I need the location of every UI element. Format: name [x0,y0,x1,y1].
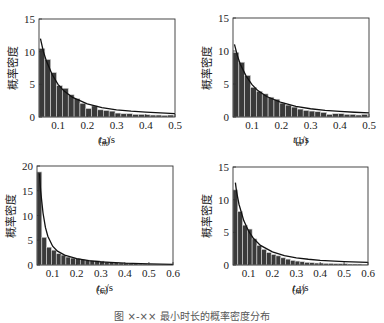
y-tick-label: 0 [28,259,34,271]
y-tick-label: 0 [224,111,230,123]
chart-b-label: (b) [295,134,308,146]
histogram-bar [290,260,295,265]
histogram-bar [251,87,257,117]
chart-c-svg: 051015200.10.20.30.40.50.6tm/s概率密度 [0,150,192,300]
histogram-bar [243,225,248,265]
histogram-bar [291,107,297,117]
x-tick-label: 0.1 [242,267,256,279]
x-tick-label: 0.6 [166,267,180,279]
y-tick-label: 10 [218,45,230,57]
histogram-bar [256,91,262,117]
y-tick-label: 15 [218,161,230,173]
histogram-bar [71,258,76,265]
x-tick-label: 0.3 [289,267,303,279]
histogram-bar [295,261,300,265]
y-tick-label: 10 [22,210,34,222]
y-tick-label: 10 [218,194,230,206]
histogram-bar [57,86,63,117]
histogram-bar [39,48,45,117]
histogram-bar [286,259,291,265]
y-tick-label: 5 [30,78,36,90]
chart-d-svg: 0510150.10.20.30.40.50.6tm/s概率密度 [192,150,384,300]
chart-panel-d: 0510150.10.20.30.40.50.6tm/s概率密度 (d) [192,150,384,300]
histogram-bar [276,256,281,265]
histogram-bar [266,253,271,265]
histogram-bar [37,172,42,265]
x-tick-label: 0.4 [333,119,347,131]
histogram-bar [74,99,80,117]
y-tick-label: 15 [24,13,36,25]
x-tick-label: 0.5 [362,119,376,131]
histogram-bar [115,113,121,117]
histogram-bar [281,258,286,265]
histogram-bar [121,114,127,117]
x-tick-label: 0.1 [245,119,259,131]
histogram-bar [321,112,327,117]
histogram-bar [280,103,286,117]
x-tick-label: 0.3 [304,119,318,131]
y-tick-label: 10 [24,46,36,58]
histogram-bar [332,114,338,117]
histogram-bar [47,247,52,265]
x-tick-label: 0.4 [118,267,132,279]
x-tick-label: 0.4 [139,119,153,131]
histogram-bar [66,257,71,265]
x-tick-label: 0.5 [142,267,156,279]
y-tick-label: 15 [22,185,34,197]
x-tick-label: 0.5 [168,119,182,131]
histogram-bar [92,106,98,117]
y-axis-label: 概率密度 [200,46,214,90]
histogram-bar [262,249,267,265]
y-axis-label: 概率密度 [200,194,214,238]
histogram-bar [238,211,243,265]
chart-b-svg: 0510150.10.20.30.40.5tm/s概率密度 [192,0,384,150]
histogram-bar [268,97,274,117]
histogram-bar [252,239,257,265]
chart-a-label: (a) [98,134,110,146]
chart-a-svg: 0510150.10.20.30.40.5tm/s概率密度 [0,0,192,150]
histogram-bar [42,237,47,265]
histogram-bar [233,52,239,117]
histogram-bar [257,245,262,265]
x-tick-label: 0.3 [110,119,124,131]
x-tick-label: 0.2 [266,267,280,279]
chart-panel-c: 051015200.10.20.30.40.50.6tm/s概率密度 (c) [0,150,192,300]
x-tick-label: 0.2 [70,267,84,279]
histogram-bars [233,190,367,265]
chart-d-label: (d) [292,283,305,295]
histogram-bar [97,110,103,117]
x-tick-label: 0.3 [94,267,108,279]
y-tick-label: 0 [30,111,36,123]
x-tick-label: 0.1 [51,119,65,131]
histogram-bar [56,254,61,265]
y-axis-label: 概率密度 [4,194,18,238]
x-tick-label: 0.5 [337,267,351,279]
histogram-bars [39,48,174,117]
y-tick-label: 5 [224,78,230,90]
chart-c-label: (c) [96,283,108,295]
histogram-bar [80,103,86,117]
y-tick-label: 5 [224,226,230,238]
histogram-bar [86,109,92,117]
histogram-bar [109,111,115,117]
histogram-bar [51,250,56,265]
x-tick-label: 0.2 [80,119,94,131]
histogram-bar [309,111,315,117]
histogram-bar [103,110,109,117]
histogram-bar [127,114,133,117]
fit-curve [39,173,173,264]
histogram-bar [315,112,321,117]
chart-panel-a: 0510150.10.20.30.40.5tm/s概率密度 (a) [0,0,192,150]
histogram-bar [338,114,344,117]
x-tick-label: 0.6 [361,267,375,279]
y-tick-label: 20 [22,160,34,172]
y-tick-label: 5 [28,234,34,246]
x-tick-label: 0.2 [274,119,288,131]
histogram-bar [297,109,303,117]
chart-panel-b: 0510150.10.20.30.40.5tm/s概率密度 (b) [192,0,384,150]
histogram-bar [303,110,309,117]
x-tick-label: 0.4 [313,267,327,279]
histogram-bar [233,190,238,265]
histogram-bar [61,255,66,265]
y-tick-label: 15 [218,12,230,24]
